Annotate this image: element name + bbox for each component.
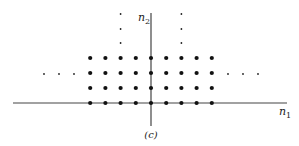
lattice-point bbox=[179, 86, 183, 90]
lattice-point bbox=[164, 86, 168, 90]
continuation-dot bbox=[257, 73, 259, 75]
lattice-point bbox=[88, 56, 92, 60]
lattice-point bbox=[195, 71, 199, 75]
lattice-point bbox=[103, 86, 107, 90]
lattice-point bbox=[179, 71, 183, 75]
lattice-point bbox=[195, 56, 199, 60]
lattice-point bbox=[119, 56, 123, 60]
continuation-dot bbox=[120, 13, 122, 15]
lattice-point bbox=[149, 101, 153, 105]
lattice-point bbox=[134, 56, 138, 60]
n2-axis-label: n2 bbox=[138, 11, 150, 26]
continuation-dot bbox=[58, 73, 60, 75]
lattice-point bbox=[210, 101, 214, 105]
lattice-point bbox=[179, 101, 183, 105]
lattice-point bbox=[119, 71, 123, 75]
continuation-dot bbox=[227, 73, 229, 75]
lattice-point bbox=[134, 101, 138, 105]
lattice-point bbox=[179, 56, 183, 60]
lattice-point bbox=[210, 56, 214, 60]
continuation-dot bbox=[181, 13, 183, 15]
continuation-dot bbox=[120, 28, 122, 30]
lattice-point bbox=[149, 56, 153, 60]
lattice-point bbox=[88, 71, 92, 75]
lattice-point bbox=[149, 86, 153, 90]
figure-caption: (c) bbox=[144, 129, 158, 140]
lattice-point bbox=[119, 101, 123, 105]
lattice-point bbox=[103, 56, 107, 60]
lattice-point bbox=[210, 71, 214, 75]
lattice-point bbox=[195, 86, 199, 90]
lattice-point bbox=[164, 71, 168, 75]
continuation-dot bbox=[43, 73, 45, 75]
lattice-point bbox=[88, 86, 92, 90]
lattice-point bbox=[103, 101, 107, 105]
lattice-point bbox=[164, 56, 168, 60]
lattice-point bbox=[210, 86, 214, 90]
lattice-point bbox=[134, 86, 138, 90]
lattice-point bbox=[149, 71, 153, 75]
continuation-dot bbox=[242, 73, 244, 75]
continuation-dot bbox=[120, 42, 122, 44]
lattice-point bbox=[134, 71, 138, 75]
continuation-dot bbox=[73, 73, 75, 75]
continuation-dot bbox=[181, 42, 183, 44]
lattice-point bbox=[119, 86, 123, 90]
continuation-dot bbox=[181, 28, 183, 30]
lattice-point bbox=[195, 101, 199, 105]
lattice-point bbox=[88, 101, 92, 105]
lattice-point bbox=[103, 71, 107, 75]
lattice-point bbox=[164, 101, 168, 105]
n1-axis-label: n1 bbox=[279, 105, 291, 120]
lattice-diagram: n2 n1 (c) bbox=[0, 0, 299, 146]
